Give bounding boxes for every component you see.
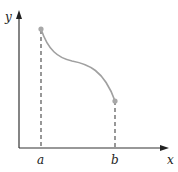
point-a-label: a	[37, 153, 44, 167]
function-curve	[41, 29, 115, 101]
point-b-label: b	[111, 153, 119, 167]
x-axis-label: x	[167, 153, 174, 167]
point-b-marker	[112, 98, 117, 103]
graph-svg: y x a b	[0, 0, 178, 172]
y-axis-label: y	[4, 10, 12, 24]
point-a-marker	[38, 26, 43, 31]
function-graph-diagram: y x a b	[0, 0, 178, 172]
x-axis-arrow-icon	[160, 145, 169, 151]
y-axis-arrow-icon	[16, 10, 22, 19]
